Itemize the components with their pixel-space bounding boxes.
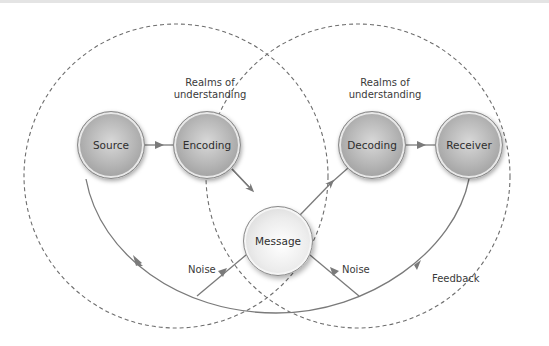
realm-label-line: Realms of — [160, 77, 260, 89]
node-decoding: Decoding — [338, 111, 406, 179]
node-message: Message — [243, 206, 313, 276]
noise-label-right: Noise — [342, 264, 370, 276]
arrowhead-icon — [330, 267, 339, 276]
realm-label-line: understanding — [335, 89, 435, 101]
node-label: Message — [255, 235, 301, 247]
arrowhead-icon — [155, 141, 164, 149]
realm-circle-left — [24, 24, 328, 328]
node-label: Source — [93, 139, 129, 151]
realm-label-left: Realms of understanding — [160, 77, 260, 101]
node-source: Source — [77, 111, 145, 179]
node-receiver: Receiver — [435, 111, 503, 179]
feedback-label: Feedback — [432, 273, 480, 285]
node-label: Decoding — [347, 139, 397, 151]
noise-label-left: Noise — [188, 264, 216, 276]
node-label: Encoding — [183, 139, 231, 151]
arrowhead-icon — [232, 169, 251, 189]
arrowhead-icon — [417, 141, 426, 149]
realm-label-line: Realms of — [335, 77, 435, 89]
realm-label-right: Realms of understanding — [335, 77, 435, 101]
node-label: Receiver — [446, 139, 491, 151]
node-encoding: Encoding — [173, 111, 241, 179]
realm-label-line: understanding — [160, 89, 260, 101]
